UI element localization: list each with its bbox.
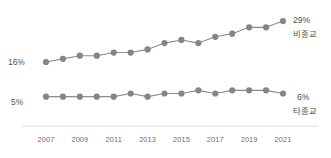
upper-data-point <box>43 59 49 65</box>
lower-data-point <box>246 87 252 93</box>
x-axis-tick-2007: 2007 <box>38 135 55 144</box>
x-axis-tick-labels: 20072009201120132015201720192021 <box>38 135 292 144</box>
upper-series-start-value: 16% <box>8 57 25 67</box>
lower-series-end-value: 6% <box>297 92 310 102</box>
chart-container: 20072009201120132015201720192021 16% 5% … <box>0 0 331 158</box>
upper-data-point <box>144 46 150 52</box>
upper-data-point <box>94 53 100 59</box>
lower-series-name-label: 타종교 <box>293 106 317 116</box>
upper-line-markers <box>43 18 286 65</box>
upper-data-point <box>212 34 218 40</box>
line-chart: 20072009201120132015201720192021 16% 5% … <box>0 0 331 158</box>
upper-data-point <box>195 40 201 46</box>
lower-data-point <box>263 87 269 93</box>
x-axis-tick-2019: 2019 <box>241 135 258 144</box>
lower-data-point <box>128 90 134 96</box>
upper-data-point <box>229 31 235 37</box>
upper-data-point <box>60 56 66 62</box>
upper-data-point <box>128 49 134 55</box>
upper-data-point <box>77 53 83 59</box>
lower-data-point <box>77 94 83 100</box>
x-axis-tick-2013: 2013 <box>139 135 156 144</box>
x-axis-tick-2011: 2011 <box>106 135 122 144</box>
lower-data-point <box>60 94 66 100</box>
lower-data-point <box>111 94 117 100</box>
lower-data-point <box>212 90 218 96</box>
lower-data-point <box>144 94 150 100</box>
x-axis-tick-2017: 2017 <box>207 135 224 144</box>
lower-line-markers <box>43 87 286 100</box>
upper-data-point <box>111 49 117 55</box>
upper-data-point <box>178 37 184 43</box>
lower-data-point <box>195 87 201 93</box>
upper-series-end-value: 29% <box>293 15 311 25</box>
lower-data-point <box>94 94 100 100</box>
upper-data-point <box>263 24 269 30</box>
lower-data-point <box>229 87 235 93</box>
upper-series-name-label: 비종교 <box>293 29 317 39</box>
lower-data-point <box>161 90 167 96</box>
x-axis-tick-2009: 2009 <box>71 135 88 144</box>
lower-data-point <box>280 90 286 96</box>
lower-data-point <box>178 90 184 96</box>
lower-data-point <box>43 94 49 100</box>
upper-data-point <box>161 40 167 46</box>
upper-data-point <box>246 24 252 30</box>
x-axis-tick-2021: 2021 <box>275 135 292 144</box>
upper-data-point <box>280 18 286 24</box>
lower-series-start-value: 5% <box>11 97 24 107</box>
x-axis-tick-2015: 2015 <box>173 135 190 144</box>
